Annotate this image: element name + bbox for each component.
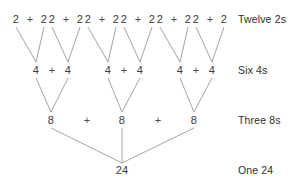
plus-operator: + bbox=[63, 14, 69, 25]
plus-operator: + bbox=[99, 14, 105, 25]
tree-node: 2 bbox=[149, 14, 155, 25]
plus-operator: + bbox=[121, 65, 127, 76]
tree-node: 8 bbox=[119, 115, 125, 126]
tree-edge bbox=[122, 128, 194, 163]
sum-tree-diagram: 222222222222++++++Twelve 2s444444+++Six … bbox=[0, 0, 302, 186]
tree-edge bbox=[36, 27, 44, 62]
plus-operator: + bbox=[27, 14, 33, 25]
tree-node: 4 bbox=[33, 65, 39, 76]
tree-edge bbox=[108, 78, 122, 112]
tree-node: 4 bbox=[177, 65, 183, 76]
tree-node: 2 bbox=[221, 14, 227, 25]
tree-edge bbox=[108, 27, 116, 62]
tree-node: 2 bbox=[121, 14, 127, 25]
plus-operator: + bbox=[49, 65, 55, 76]
row-label-level-twos: Twelve 2s bbox=[238, 14, 286, 25]
tree-edge bbox=[180, 27, 188, 62]
plus-operator: + bbox=[193, 65, 199, 76]
tree-node: 2 bbox=[157, 14, 163, 25]
tree-edge bbox=[194, 78, 212, 112]
tree-edge bbox=[51, 78, 68, 112]
tree-node: 4 bbox=[137, 65, 143, 76]
tree-node: 2 bbox=[185, 14, 191, 25]
tree-node: 2 bbox=[49, 14, 55, 25]
edge-layer bbox=[0, 0, 302, 186]
row-label-level-total: One 24 bbox=[238, 165, 273, 176]
tree-edge bbox=[140, 27, 152, 62]
tree-node: 2 bbox=[193, 14, 199, 25]
tree-node: 8 bbox=[48, 115, 54, 126]
row-label-level-fours: Six 4s bbox=[238, 65, 268, 76]
tree-edge bbox=[122, 78, 140, 112]
tree-node: 24 bbox=[116, 165, 129, 176]
tree-edge bbox=[124, 27, 140, 62]
tree-edge bbox=[196, 27, 212, 62]
tree-node: 2 bbox=[113, 14, 119, 25]
plus-operator: + bbox=[171, 14, 177, 25]
tree-edge bbox=[212, 27, 224, 62]
row-label-level-eights: Three 8s bbox=[238, 115, 281, 126]
tree-node: 2 bbox=[13, 14, 19, 25]
tree-node: 2 bbox=[41, 14, 47, 25]
plus-operator: + bbox=[135, 14, 141, 25]
plus-operator: + bbox=[155, 115, 161, 126]
tree-edge bbox=[52, 27, 68, 62]
tree-node: 4 bbox=[105, 65, 111, 76]
tree-node: 2 bbox=[85, 14, 91, 25]
tree-edge bbox=[16, 27, 36, 62]
plus-operator: + bbox=[84, 115, 90, 126]
tree-node: 4 bbox=[209, 65, 215, 76]
tree-edge bbox=[36, 78, 51, 112]
tree-edge bbox=[160, 27, 180, 62]
plus-operator: + bbox=[207, 14, 213, 25]
tree-edge bbox=[88, 27, 108, 62]
tree-edge bbox=[68, 27, 80, 62]
tree-edge bbox=[180, 78, 194, 112]
tree-node: 4 bbox=[65, 65, 71, 76]
tree-node: 2 bbox=[77, 14, 83, 25]
tree-node: 8 bbox=[191, 115, 197, 126]
tree-edge bbox=[51, 128, 122, 163]
